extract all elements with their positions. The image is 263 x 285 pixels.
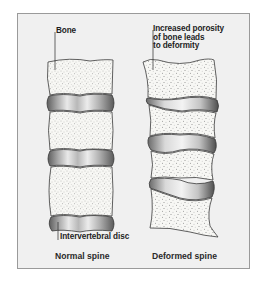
normal-vertebra-2 [49,111,114,150]
normal-disc-1 [47,94,114,112]
deformed-spine-caption: Deformed spine [152,251,217,261]
deformed-vertebra-3 [151,150,214,180]
normal-disc-3 [49,216,114,233]
normal-spine-caption: Normal spine [55,251,109,261]
deformed-spine [143,59,219,237]
intervertebral-disc-label: Intervertebral disc [60,233,129,242]
normal-spine [47,59,114,232]
porosity-label: Increased porosity of bone leads to defo… [153,25,224,51]
bone-label: Bone [56,27,76,36]
normal-disc-2 [48,150,114,168]
normal-vertebra-1 [47,59,113,95]
normal-vertebra-3 [49,166,113,216]
deformed-vertebra-1 [143,59,217,99]
deformed-disc-2 [148,134,216,153]
